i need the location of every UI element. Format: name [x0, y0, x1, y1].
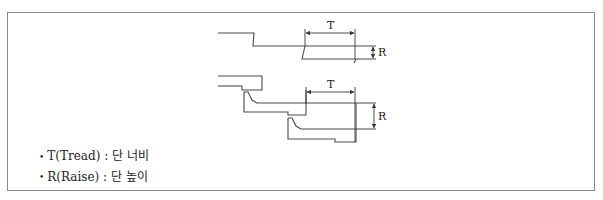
legend-separator: :	[100, 149, 112, 163]
legend-item-raise: •R(Raise) : 단 높이	[39, 167, 149, 188]
legend-meaning: 단 높이	[111, 170, 148, 184]
simple-stair-profile	[218, 33, 376, 63]
legend-term: T(Tread)	[47, 149, 100, 163]
lower-tread-label: T	[327, 78, 335, 91]
detailed-stair-profile	[218, 76, 376, 142]
legend-meaning: 단 너비	[112, 149, 149, 163]
lower-tread-dimension	[306, 87, 355, 142]
upper-tread-dimension	[305, 29, 355, 59]
legend-item-tread: •T(Tread) : 단 너비	[39, 146, 149, 167]
legend-separator: :	[99, 170, 111, 184]
bullet-icon: •	[39, 172, 44, 182]
legend: •T(Tread) : 단 너비 •R(Raise) : 단 높이	[39, 146, 149, 187]
legend-term: R(Raise)	[47, 170, 99, 184]
bullet-icon: •	[39, 152, 44, 162]
upper-raise-label: R	[378, 46, 387, 59]
lower-raise-label: R	[378, 110, 387, 123]
upper-tread-label: T	[327, 19, 335, 32]
